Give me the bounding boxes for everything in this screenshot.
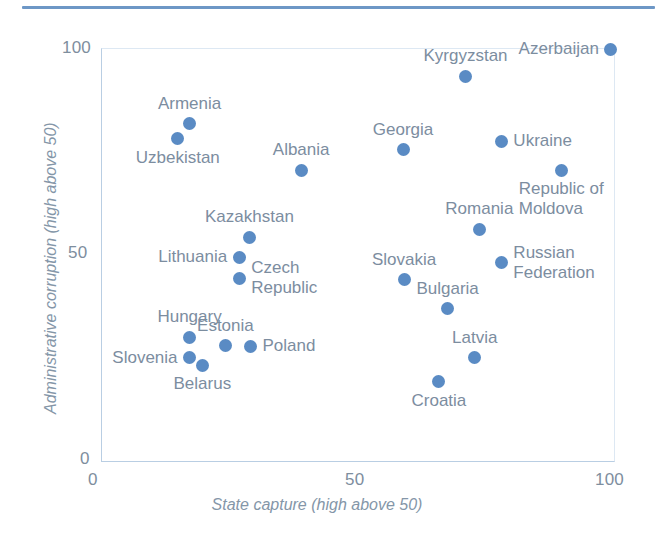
data-point[interactable] <box>495 256 508 269</box>
data-point-label: Slovenia <box>112 348 177 368</box>
data-point-label: Albania <box>273 140 330 160</box>
data-point[interactable] <box>219 339 232 352</box>
data-point-label: Slovakia <box>372 250 436 270</box>
data-point-label: Kazakhstan <box>205 207 294 227</box>
data-point[interactable] <box>196 359 209 372</box>
data-point-label: Belarus <box>174 374 232 394</box>
data-point[interactable] <box>171 132 184 145</box>
scatter-plot-figure: AzerbaijanKyrgyzstanArmeniaUzbekistanUkr… <box>0 0 668 539</box>
data-point[interactable] <box>183 117 196 130</box>
data-point-label: Romania <box>445 199 513 219</box>
data-point-label: Bulgaria <box>416 279 478 299</box>
data-point-label: Poland <box>262 336 315 356</box>
plot-area: AzerbaijanKyrgyzstanArmeniaUzbekistanUkr… <box>101 48 615 462</box>
data-point[interactable] <box>233 272 246 285</box>
data-point-label: Croatia <box>411 391 466 411</box>
data-point[interactable] <box>468 351 481 364</box>
data-point-label: Azerbaijan <box>519 39 599 59</box>
y-tick-label-50: 50 <box>68 243 87 263</box>
data-point[interactable] <box>555 164 568 177</box>
data-point-label: Lithuania <box>158 247 227 267</box>
data-point[interactable] <box>495 135 508 148</box>
data-point-label: Uzbekistan <box>136 148 220 168</box>
data-point-label: Ukraine <box>513 131 572 151</box>
data-point-label: Kyrgyzstan <box>423 46 507 66</box>
data-point[interactable] <box>233 251 246 264</box>
top-divider-rule <box>22 6 655 9</box>
data-point[interactable] <box>441 302 454 315</box>
data-point[interactable] <box>244 340 257 353</box>
data-point-label: Estonia <box>197 316 254 336</box>
x-tick-label-0: 0 <box>88 470 98 490</box>
y-axis-title: Administrative corruption (high above 50… <box>42 122 60 414</box>
data-point[interactable] <box>604 43 617 56</box>
x-tick-label-100: 100 <box>595 470 624 490</box>
data-point[interactable] <box>243 231 256 244</box>
data-point[interactable] <box>397 143 410 156</box>
data-point[interactable] <box>459 70 472 83</box>
data-point[interactable] <box>432 375 445 388</box>
x-axis-title: State capture (high above 50) <box>0 496 651 514</box>
data-point-label: Czech Republic <box>251 258 317 298</box>
data-point[interactable] <box>295 164 308 177</box>
x-tick-label-50: 50 <box>345 470 364 490</box>
data-point[interactable] <box>473 223 486 236</box>
y-tick-label-100: 100 <box>62 38 91 58</box>
data-point[interactable] <box>183 331 196 344</box>
data-point[interactable] <box>183 351 196 364</box>
data-point-label: Armenia <box>158 94 221 114</box>
data-point[interactable] <box>398 273 411 286</box>
data-point-label: Russian Federation <box>513 243 594 283</box>
data-point-label: Latvia <box>452 328 497 348</box>
data-point-label: Republic of Moldova <box>519 179 604 219</box>
y-tick-label-0: 0 <box>80 449 90 469</box>
data-point-label: Georgia <box>373 120 433 140</box>
